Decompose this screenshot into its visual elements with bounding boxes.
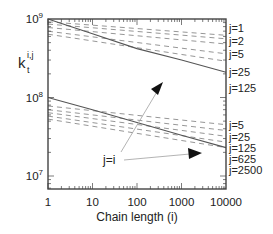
tick-marks (48, 19, 226, 189)
y-tick-label: 109 (26, 11, 44, 25)
series-line (48, 119, 226, 148)
x-tick-label: 1 (45, 196, 51, 208)
x-tick-label: 100 (127, 196, 146, 208)
axes (48, 19, 226, 189)
series-label-lower: j=5 (228, 119, 244, 131)
plot-frame (48, 19, 226, 189)
series-labels: j=1j=2j=5j=25j=125j=5j=25j=125j=625j=250… (228, 22, 262, 176)
series-line (48, 24, 226, 39)
series-line (48, 34, 226, 61)
y-axis-label-sup: i,j (27, 50, 34, 60)
y-tick-label: 108 (26, 90, 44, 104)
arrow-to-lower (124, 154, 190, 160)
x-tick-label: 10 (86, 196, 99, 208)
tick-labels: 110100100010000109108107 (26, 11, 242, 208)
data-lines (48, 19, 226, 148)
series-label-upper: j=2 (228, 35, 244, 47)
annotation-j-eq-i: j=i (102, 153, 115, 167)
series-label-lower: j=2500 (228, 164, 262, 176)
chart-svg: k i,j t Chain length (i) j=i 11010010001… (0, 0, 273, 234)
series-line (48, 106, 226, 125)
y-axis-label-sub: t (27, 65, 30, 75)
x-tick-label: 1000 (169, 196, 195, 208)
series-line (48, 28, 226, 45)
arrow-head-upper (151, 82, 163, 95)
x-axis-label: Chain length (i) (96, 210, 177, 224)
series-line (48, 31, 226, 54)
chart-container: k i,j t Chain length (i) j=i 11010010001… (0, 0, 273, 234)
series-line (48, 116, 226, 142)
y-tick-label: 107 (26, 168, 44, 182)
arrow-to-upper (121, 90, 158, 152)
arrow-head-lower (188, 148, 202, 159)
series-label-upper: j=5 (228, 48, 244, 60)
series-line (48, 98, 226, 148)
series-line (48, 19, 226, 72)
series-label-upper: j=125 (228, 82, 256, 94)
series-label-upper: j=1 (228, 22, 244, 34)
series-label-upper: j=25 (228, 66, 250, 78)
y-axis-label: k (18, 54, 26, 71)
x-tick-label: 10000 (210, 196, 242, 208)
series-line (48, 110, 226, 131)
